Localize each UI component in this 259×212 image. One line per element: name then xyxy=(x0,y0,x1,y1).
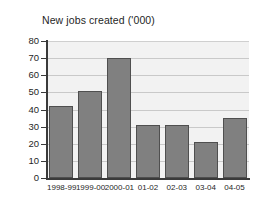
bar xyxy=(165,125,189,178)
x-axis-label: 04-05 xyxy=(220,183,249,193)
x-axis-label: 02-03 xyxy=(162,183,191,193)
y-axis-label-wrap: 70 xyxy=(18,53,39,63)
x-axis-label: 1998-99 xyxy=(47,183,76,193)
x-axis-label: 2000-01 xyxy=(105,183,134,193)
y-axis-label: 10 xyxy=(18,156,39,166)
x-axis-label: 03-04 xyxy=(191,183,220,193)
y-axis-label: 40 xyxy=(18,105,39,115)
y-axis-label-wrap: 30 xyxy=(18,122,39,132)
y-axis-label: 50 xyxy=(18,87,39,97)
y-axis-label: 80 xyxy=(18,36,39,46)
y-axis-label-wrap: 20 xyxy=(18,139,39,149)
y-axis-label: 60 xyxy=(18,70,39,80)
y-axis-label-wrap: 80 xyxy=(18,36,39,46)
y-axis-label-wrap: 50 xyxy=(18,87,39,97)
bar xyxy=(107,58,131,178)
bar xyxy=(136,125,160,178)
bar xyxy=(78,91,102,178)
y-axis-label-wrap: 60 xyxy=(18,70,39,80)
x-axis-line xyxy=(46,178,250,180)
chart-title: New jobs created ('000) xyxy=(42,14,155,26)
bars-layer xyxy=(47,41,249,178)
y-axis-tick xyxy=(41,178,47,179)
x-axis-label: 1999-00 xyxy=(76,183,105,193)
y-axis-label: 70 xyxy=(18,53,39,63)
bar xyxy=(194,142,218,178)
x-axis-labels: 1998-991999-002000-0101-0202-0303-0404-0… xyxy=(47,183,249,197)
bar xyxy=(49,106,73,178)
y-axis-label-wrap: 40 xyxy=(18,105,39,115)
x-axis-label: 01-02 xyxy=(134,183,163,193)
bar-chart-figure: New jobs created ('000) 0102030405060708… xyxy=(0,0,259,212)
bar xyxy=(223,118,247,178)
y-axis-label: 20 xyxy=(18,139,39,149)
y-axis-label: 0 xyxy=(18,173,39,183)
y-axis-label-wrap: 0 xyxy=(18,173,39,183)
y-axis-label: 30 xyxy=(18,122,39,132)
y-axis-label-wrap: 10 xyxy=(18,156,39,166)
